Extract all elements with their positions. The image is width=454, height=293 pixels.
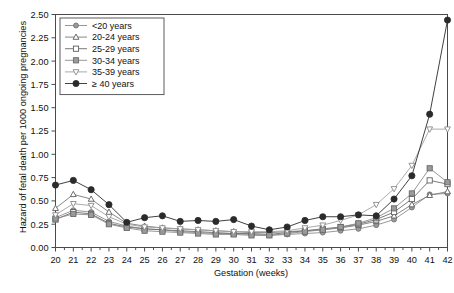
data-point: [391, 206, 396, 211]
y-tick-label: 1.75: [31, 80, 49, 90]
data-point: [409, 196, 414, 201]
x-axis-label: Gestation (weeks): [55, 268, 447, 278]
y-axis-label: Hazard of fetal death per 1000 ongoing p…: [18, 12, 28, 242]
x-tick-label: 23: [104, 255, 114, 265]
data-point: [70, 191, 76, 196]
y-tick-label: 0.00: [31, 243, 49, 253]
figure: 0.000.250.500.751.001.251.501.752.002.25…: [0, 0, 454, 293]
data-point: [89, 212, 94, 217]
x-tick-label: 28: [193, 255, 203, 265]
data-point: [213, 218, 219, 224]
data-point: [88, 203, 94, 208]
data-point: [302, 217, 308, 223]
x-tick-label: 40: [407, 255, 417, 265]
legend-label: 25-29 years: [92, 44, 140, 54]
data-point: [444, 17, 450, 23]
data-point: [88, 187, 94, 193]
data-point: [373, 202, 379, 207]
data-point: [409, 173, 415, 179]
chart-canvas: 0.000.250.500.751.001.251.501.752.002.25…: [0, 0, 454, 293]
data-point: [427, 111, 433, 117]
data-point: [106, 222, 111, 227]
x-tick-label: 33: [282, 255, 292, 265]
data-point: [248, 223, 254, 229]
x-tick-label: 27: [175, 255, 185, 265]
x-tick-label: 38: [371, 255, 381, 265]
data-point: [106, 209, 112, 214]
x-tick-label: 37: [353, 255, 363, 265]
data-point: [373, 213, 379, 219]
y-tick-label: 1.00: [31, 150, 49, 160]
data-point: [141, 215, 147, 221]
x-tick-label: 42: [442, 255, 452, 265]
data-point: [355, 212, 361, 218]
legend-label: <20 years: [92, 21, 132, 31]
y-tick-label: 0.75: [31, 173, 49, 183]
data-point: [177, 218, 183, 224]
legend-marker: [73, 46, 78, 51]
data-point: [356, 221, 361, 226]
x-tick-label: 31: [246, 255, 256, 265]
y-tick-label: 1.50: [31, 103, 49, 113]
y-tick-label: 0.50: [31, 196, 49, 206]
data-point: [71, 211, 76, 216]
series-line: [56, 129, 448, 232]
y-tick-label: 2.00: [31, 57, 49, 67]
data-point: [409, 202, 415, 207]
data-point: [53, 205, 59, 210]
x-tick-label: 30: [229, 255, 239, 265]
x-tick-label: 21: [68, 255, 78, 265]
y-tick-label: 2.25: [31, 33, 49, 43]
x-tick-label: 36: [335, 255, 345, 265]
data-point: [106, 202, 112, 208]
legend-label: 35-39 years: [92, 67, 140, 77]
legend-label: ≥ 40 years: [92, 79, 134, 89]
data-point: [124, 219, 130, 225]
data-point: [159, 213, 165, 219]
x-tick-label: 22: [86, 255, 96, 265]
x-tick-label: 39: [389, 255, 399, 265]
x-tick-label: 25: [139, 255, 149, 265]
x-tick-label: 34: [300, 255, 310, 265]
x-tick-label: 32: [264, 255, 274, 265]
x-tick-label: 29: [211, 255, 221, 265]
data-point: [445, 180, 450, 185]
y-tick-label: 0.25: [31, 220, 49, 230]
legend-marker: [73, 58, 78, 63]
legend-label: 20-24 years: [92, 32, 140, 42]
legend-marker: [73, 80, 79, 86]
legend-marker: [74, 23, 79, 28]
data-point: [231, 216, 237, 222]
data-point: [320, 214, 326, 220]
x-tick-label: 41: [425, 255, 435, 265]
data-point: [70, 177, 76, 183]
data-point: [284, 224, 290, 230]
data-point: [427, 178, 432, 183]
data-point: [338, 224, 343, 229]
series-35-39-years: [53, 127, 451, 235]
data-point: [391, 196, 397, 202]
data-point: [445, 188, 451, 193]
y-tick-label: 1.25: [31, 126, 49, 136]
x-tick-label: 26: [157, 255, 167, 265]
y-tick-label: 2.50: [31, 10, 49, 20]
legend-label: 30-34 years: [92, 56, 140, 66]
x-tick-label: 20: [50, 255, 60, 265]
x-tick-label: 35: [318, 255, 328, 265]
data-point: [409, 191, 414, 196]
data-point: [266, 227, 272, 233]
data-point: [337, 214, 343, 220]
legend: <20 years20-24 years25-29 years30-34 yea…: [60, 18, 164, 95]
data-point: [52, 182, 58, 188]
data-point: [195, 217, 201, 223]
x-tick-label: 24: [122, 255, 132, 265]
data-point: [427, 166, 432, 171]
